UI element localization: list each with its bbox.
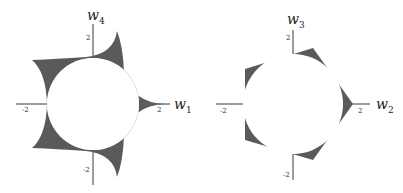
tick-y-neg: -2 <box>83 167 90 174</box>
y-axis-label-w4: w4 <box>87 8 105 26</box>
x-axis-label-w2: w2 <box>376 97 394 115</box>
inner-circle <box>47 58 139 150</box>
y-axis-label-w3: w3 <box>287 12 305 30</box>
tick-x-pos: 2 <box>157 107 161 114</box>
inner-circle <box>243 54 343 154</box>
tick-y-pos: 2 <box>286 35 290 42</box>
tick-y-pos: 2 <box>86 35 90 42</box>
right-plot-panel: w3 w2 2 -2 -2 2 <box>200 0 403 193</box>
tick-x-pos: 2 <box>358 108 362 115</box>
left-plot-panel: w4 w1 2 -2 -2 2 <box>0 0 200 193</box>
star-diagram <box>0 0 200 193</box>
tick-y-neg: -2 <box>283 172 290 179</box>
x-axis-label-w1: w1 <box>174 97 192 115</box>
tick-x-neg: -2 <box>22 107 29 114</box>
tick-x-neg: -2 <box>220 108 227 115</box>
